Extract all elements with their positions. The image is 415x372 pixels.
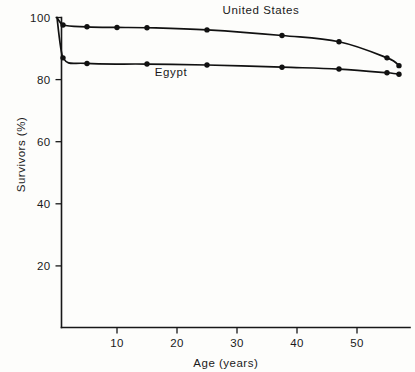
x-tick-label: 50	[350, 337, 364, 349]
data-point-marker	[279, 33, 284, 38]
y-tick-label: 100	[30, 12, 50, 24]
series-label-egypt: Egypt	[155, 66, 188, 78]
y-axis-title: Survivors (%)	[15, 117, 27, 193]
series-united-states	[57, 18, 402, 69]
chart-svg: 20406080100 1020304050 United StatesEgyp…	[0, 0, 415, 372]
data-point-marker	[204, 62, 209, 67]
series-label-united-states: United States	[223, 4, 300, 16]
y-tick-label: 80	[37, 74, 51, 86]
x-tick-label: 20	[170, 337, 184, 349]
survival-curve-chart: 20406080100 1020304050 United StatesEgyp…	[0, 0, 415, 372]
x-tick-label: 10	[110, 337, 124, 349]
data-point-marker	[384, 70, 389, 75]
y-tick-label: 60	[37, 136, 51, 148]
data-point-marker	[84, 24, 89, 29]
series-egypt	[57, 18, 402, 78]
data-series-group	[57, 18, 402, 78]
data-point-marker	[144, 61, 149, 66]
data-point-marker	[60, 22, 65, 27]
series-line	[57, 18, 399, 66]
y-axis-ticks: 20406080100	[30, 12, 61, 272]
data-point-marker	[84, 61, 89, 66]
x-tick-label: 30	[230, 337, 244, 349]
y-tick-label: 40	[37, 198, 51, 210]
series-line	[57, 18, 399, 75]
data-point-marker	[384, 55, 389, 60]
data-point-marker	[204, 27, 209, 32]
data-point-marker	[396, 63, 401, 68]
data-point-marker	[279, 64, 284, 69]
x-axis-title: Age (years)	[193, 357, 258, 369]
data-point-marker	[336, 66, 341, 71]
x-axis-ticks: 1020304050	[110, 328, 364, 349]
y-tick-label: 20	[37, 260, 51, 272]
data-point-marker	[144, 25, 149, 30]
x-tick-label: 40	[290, 337, 304, 349]
data-point-marker	[60, 55, 65, 60]
data-point-marker	[114, 25, 119, 30]
data-point-marker	[396, 72, 401, 77]
data-point-marker	[336, 39, 341, 44]
